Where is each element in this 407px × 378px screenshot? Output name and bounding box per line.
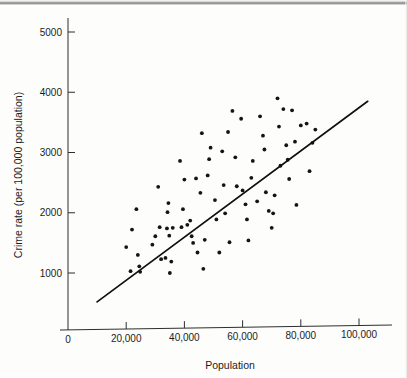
data-point — [270, 226, 274, 230]
data-point — [241, 189, 245, 193]
data-point — [200, 131, 204, 135]
data-point — [299, 123, 303, 127]
data-point — [220, 149, 224, 153]
data-point — [223, 211, 227, 215]
data-point — [190, 234, 194, 238]
data-point — [226, 130, 230, 134]
x-tick-group: 020,00040,00060,00080,000100,000 — [65, 318, 377, 344]
x-tick-label: 20,000 — [111, 333, 142, 344]
data-point — [209, 146, 213, 150]
data-point — [267, 209, 271, 213]
data-point — [201, 267, 205, 271]
data-point — [188, 219, 192, 223]
data-point — [134, 207, 138, 211]
data-point — [194, 177, 198, 181]
data-point — [295, 203, 299, 207]
data-point — [169, 260, 173, 264]
data-point — [137, 264, 141, 268]
data-point — [191, 241, 195, 245]
data-point — [263, 148, 267, 152]
data-point — [245, 217, 249, 221]
y-tick-label: 2000 — [40, 207, 63, 218]
data-point — [207, 157, 211, 161]
data-point — [199, 191, 203, 195]
data-point — [249, 176, 253, 180]
data-point — [180, 225, 184, 229]
data-point — [273, 193, 277, 197]
data-point — [233, 155, 237, 159]
data-points-layer — [124, 96, 317, 275]
data-point — [129, 269, 133, 273]
data-point — [308, 169, 312, 173]
data-point — [281, 107, 285, 111]
scatter-plot: 10002000300040005000 020,00040,00060,000… — [0, 0, 407, 378]
y-tick-label: 4000 — [40, 87, 63, 98]
data-point — [276, 96, 280, 100]
regression-line — [97, 101, 368, 302]
data-point — [313, 128, 317, 132]
data-point — [156, 185, 160, 189]
data-point — [277, 125, 281, 129]
figure-canvas: 10002000300040005000 020,00040,00060,000… — [0, 0, 407, 378]
data-point — [167, 234, 171, 238]
data-point — [171, 226, 175, 230]
data-point — [213, 198, 217, 202]
y-tick-group: 10002000300040005000 — [40, 27, 75, 279]
data-point — [136, 253, 140, 257]
data-point — [196, 251, 200, 255]
data-point — [150, 243, 154, 247]
data-point — [183, 178, 187, 182]
data-point — [247, 239, 251, 243]
x-tick-label: 60,000 — [227, 331, 258, 342]
data-point — [235, 184, 239, 188]
data-point — [166, 201, 170, 205]
data-point — [305, 122, 309, 126]
data-point — [251, 159, 255, 163]
data-point — [206, 173, 210, 177]
data-point — [293, 140, 297, 144]
data-point — [166, 210, 170, 214]
data-point — [185, 223, 189, 227]
y-axis: 10002000300040005000 — [40, 18, 75, 330]
data-point — [168, 271, 172, 275]
data-point — [290, 108, 294, 112]
data-point — [271, 211, 275, 215]
data-point — [203, 238, 207, 242]
x-tick-label: 40,000 — [169, 332, 200, 343]
x-axis-title: Population — [205, 359, 255, 371]
data-point — [124, 245, 128, 249]
data-point — [178, 159, 182, 163]
data-point — [284, 143, 288, 147]
data-point — [258, 114, 262, 118]
data-point — [239, 117, 243, 121]
data-point — [159, 257, 163, 261]
y-tick-label: 1000 — [40, 268, 63, 279]
x-tick-label: 100,000 — [341, 329, 378, 340]
data-point — [215, 217, 219, 221]
data-point — [244, 202, 248, 206]
data-point — [158, 225, 162, 229]
data-point — [231, 109, 235, 113]
data-point — [130, 228, 134, 232]
data-point — [217, 251, 221, 255]
data-point — [264, 190, 268, 194]
x-tick-label: 0 — [65, 334, 71, 345]
y-axis-title: Crime rate (per 100,000 population) — [12, 92, 24, 258]
data-point — [261, 134, 265, 138]
data-point — [164, 256, 168, 260]
data-point — [153, 234, 157, 238]
data-point — [255, 199, 259, 203]
x-axis: 020,00040,00060,00080,000100,000 — [60, 318, 392, 344]
x-tick-label: 80,000 — [286, 330, 317, 341]
data-point — [181, 207, 185, 211]
data-point — [287, 177, 291, 181]
y-tick-label: 3000 — [40, 147, 63, 158]
data-point — [165, 227, 169, 231]
data-point — [228, 240, 232, 244]
y-tick-label: 5000 — [40, 27, 63, 38]
data-point — [222, 183, 226, 187]
